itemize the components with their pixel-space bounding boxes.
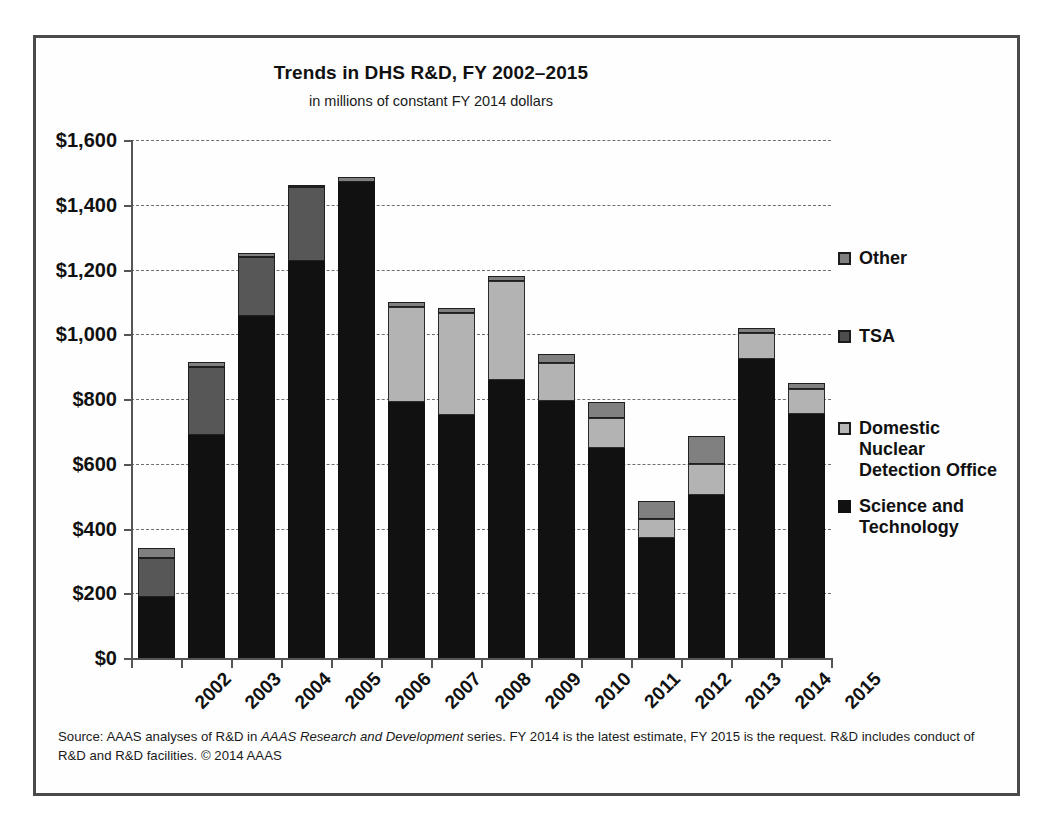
gridline [131,529,831,530]
legend-label: Science and Technology [859,496,964,538]
bar-group[interactable] [488,140,525,658]
y-tick-label: $1,200 [56,258,117,281]
bar-group[interactable] [688,140,725,658]
bar-segment[interactable] [138,548,175,558]
bar-group[interactable] [238,140,275,658]
gridline [131,140,831,141]
bar-segment[interactable] [288,185,325,187]
legend-swatch-icon [838,422,851,435]
bar-segment[interactable] [138,558,175,597]
x-tick [131,659,133,668]
bar-group[interactable] [188,140,225,658]
legend-label: TSA [859,326,895,347]
bar-group[interactable] [538,140,575,658]
x-tick [381,659,383,668]
bar-segment[interactable] [788,414,825,658]
bar-segment[interactable] [788,389,825,413]
bar-segment[interactable] [638,538,675,658]
bar-group[interactable] [638,140,675,658]
legend-item-dndo[interactable]: Domestic Nuclear Detection Office [838,418,997,481]
legend-item-science-technology[interactable]: Science and Technology [838,496,964,538]
bar-segment[interactable] [538,354,575,364]
bar-segment[interactable] [738,359,775,658]
bar-group[interactable] [338,140,375,658]
bar-segment[interactable] [188,435,225,658]
bar-segment[interactable] [138,597,175,659]
legend-label: Other [859,248,907,269]
y-tick [124,270,133,272]
y-tick [124,399,133,401]
y-tick-label: $400 [73,517,118,540]
bar-segment[interactable] [688,464,725,495]
bar-segment[interactable] [538,401,575,658]
bar-segment[interactable] [788,383,825,389]
bar-segment[interactable] [638,501,675,519]
bar-segment[interactable] [588,418,625,447]
x-tick-label: 2006 [390,668,435,713]
bar-segment[interactable] [588,402,625,418]
x-tick [181,659,183,668]
source-note: Source: AAAS analyses of R&D in AAAS Res… [58,728,998,765]
bar-segment[interactable] [338,182,375,658]
y-tick-label: $200 [73,582,118,605]
bar-segment[interactable] [288,261,325,658]
x-tick-label: 2008 [490,668,535,713]
bar-segment[interactable] [238,257,275,317]
source-part-1: Source: AAAS analyses of R&D in [58,729,261,744]
bar-segment[interactable] [488,380,525,658]
bar-segment[interactable] [638,519,675,538]
y-tick-label: $800 [73,388,118,411]
bar-segment[interactable] [688,436,725,464]
bar-segment[interactable] [488,276,525,281]
x-tick-label: 2004 [290,668,335,713]
x-tick [281,659,283,668]
bar-segment[interactable] [288,187,325,261]
bar-segment[interactable] [238,316,275,658]
bar-segment[interactable] [738,328,775,333]
bar-segment[interactable] [338,177,375,182]
bar-segment[interactable] [438,313,475,415]
bar-group[interactable] [438,140,475,658]
y-tick [124,464,133,466]
y-tick-label: $1,400 [56,193,117,216]
x-tick [681,659,683,668]
y-tick [124,529,133,531]
x-tick [631,659,633,668]
bar-group[interactable] [788,140,825,658]
bar-segment[interactable] [588,448,625,658]
legend-item-tsa[interactable]: TSA [838,326,895,347]
bar-segment[interactable] [438,415,475,658]
bar-group[interactable] [388,140,425,658]
legend-item-other[interactable]: Other [838,248,907,269]
x-tick-label: 2011 [640,668,685,713]
x-tick-label: 2015 [840,668,885,713]
bar-segment[interactable] [388,302,425,307]
bar-group[interactable] [288,140,325,658]
x-tick-label: 2014 [790,668,835,713]
bar-segment[interactable] [388,402,425,658]
y-tick [124,593,133,595]
bar-segment[interactable] [688,495,725,658]
chart-figure: Trends in DHS R&D, FY 2002–2015 in milli… [33,35,1020,796]
x-tick [531,659,533,668]
x-tick [481,659,483,668]
x-tick-label: 2010 [590,668,635,713]
bar-segment[interactable] [438,308,475,313]
bar-segment[interactable] [238,253,275,256]
x-tick-label: 2002 [190,668,235,713]
bar-segment[interactable] [188,367,225,435]
chart-title: Trends in DHS R&D, FY 2002–2015 [36,62,826,84]
bar-group[interactable] [588,140,625,658]
gridline [131,205,831,206]
bar-segment[interactable] [388,307,425,403]
legend-label: Domestic Nuclear Detection Office [859,418,997,481]
legend-swatch-icon [838,330,851,343]
bar-group[interactable] [138,140,175,658]
bar-group[interactable] [738,140,775,658]
bar-segment[interactable] [188,362,225,367]
bar-segment[interactable] [538,363,575,400]
bar-segment[interactable] [738,333,775,359]
bar-segment[interactable] [488,281,525,380]
x-tick [831,659,833,668]
x-tick-label: 2013 [740,668,785,713]
